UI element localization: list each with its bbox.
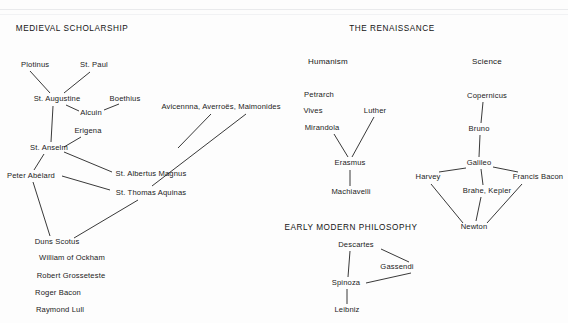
node-francisbacon: Francis Bacon xyxy=(513,173,564,181)
node-petrarch: Petrarch xyxy=(304,91,334,99)
edge-luther-to-erasmus xyxy=(352,117,374,157)
edge-mirandola-to-erasmus xyxy=(334,134,348,157)
node-bruno: Bruno xyxy=(468,125,489,133)
node-vives: Vives xyxy=(303,107,322,115)
edge-thomasaquinas-to-dunsscotus xyxy=(74,200,138,238)
section-title-earlymodern: EARLY MODERN PHILOSOPHY xyxy=(285,224,418,232)
node-machiavelli: Machiavelli xyxy=(331,188,370,196)
node-stpaul: St. Paul xyxy=(80,61,108,69)
edge-descartes-to-spinoza xyxy=(348,251,350,277)
node-spinoza: Spinoza xyxy=(332,279,361,287)
node-brahekepler: Brahe, Kepler xyxy=(463,187,511,195)
edge-peterabelard-to-dunsscotus xyxy=(33,182,50,236)
node-raymondlull: Raymond Lull xyxy=(36,306,84,314)
edge-peterabelard-to-thomasaquinas xyxy=(62,176,110,190)
edge-stpaul-to-staugustine xyxy=(64,72,90,93)
edge-stanselm-to-albertusmagnus xyxy=(64,152,112,172)
edge-gassendi-to-spinoza xyxy=(366,273,411,283)
edge-avicenna-to-albertusmagnus xyxy=(178,114,211,148)
edge-galileo-to-harvey xyxy=(439,168,466,172)
scanned-diagram-page: MEDIEVAL SCHOLARSHIPTHE RENAISSANCEEARLY… xyxy=(0,0,568,323)
edge-plotinus-to-staugustine xyxy=(30,71,50,93)
node-copernicus: Copernicus xyxy=(467,92,507,100)
edge-brahekepler-to-newton xyxy=(476,197,481,221)
edge-stanselm-to-peterabelard xyxy=(34,154,44,170)
node-rogerbacon: Roger Bacon xyxy=(35,289,81,297)
node-plotinus: Plotinus xyxy=(21,61,49,69)
scan-artifact-line xyxy=(0,9,568,10)
node-boethius: Boethius xyxy=(110,95,141,103)
node-thomasaquinas: St. Thomas Aquinas xyxy=(116,189,187,197)
node-leibniz: Leibniz xyxy=(334,306,359,314)
node-luther: Luther xyxy=(364,107,386,115)
edge-staugustine-to-stanselm xyxy=(51,106,53,142)
node-gassendi: Gassendi xyxy=(380,263,413,271)
edge-copernicus-to-bruno xyxy=(481,102,483,123)
section-title-renaissance: THE RENAISSANCE xyxy=(349,25,435,33)
node-alcuin: Alcuin xyxy=(80,109,102,117)
group-label-science: Science xyxy=(472,58,502,66)
node-descartes: Descartes xyxy=(338,241,374,249)
node-albertusmagnus: St. Albertus Magnus xyxy=(116,170,187,178)
node-williamockham: William of Ockham xyxy=(39,254,105,262)
group-label-humanism: Humanism xyxy=(308,58,348,66)
node-grosseteste: Robert Grosseteste xyxy=(37,272,106,280)
node-galileo: Galileo xyxy=(467,159,492,167)
edge-bruno-to-galileo xyxy=(479,135,480,157)
node-staugustine: St. Augustine xyxy=(34,95,81,103)
node-avicenna: Avicennna, Averroës, Maimonides xyxy=(161,103,280,111)
node-erigena: Erigena xyxy=(74,127,101,135)
node-harvey: Harvey xyxy=(416,173,441,181)
node-erasmus: Erasmus xyxy=(334,159,365,167)
section-title-medieval: MEDIEVAL SCHOLARSHIP xyxy=(16,25,128,33)
node-stanselm: St. Anselm xyxy=(30,144,68,152)
node-peterabelard: Peter Abélard xyxy=(7,172,55,180)
node-mirandola: Mirandola xyxy=(305,124,340,132)
edge-staugustine-to-alcuin xyxy=(66,105,79,111)
edge-descartes-to-gassendi xyxy=(381,249,409,262)
node-newton: Newton xyxy=(461,223,488,231)
edge-harvey-to-newton xyxy=(431,184,463,223)
edge-alcuin-to-boethius xyxy=(104,104,119,110)
edge-galileo-to-brahekepler xyxy=(481,169,483,185)
scan-artifact-line xyxy=(0,14,568,15)
node-dunsscotus: Duns Scotus xyxy=(35,238,80,246)
